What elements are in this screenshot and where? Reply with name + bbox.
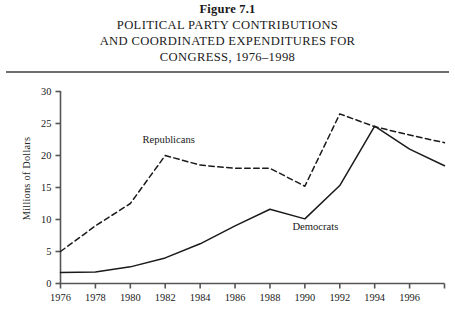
figure-title-line-3: CONGRESS, 1976–1998	[0, 49, 455, 65]
series-lines	[61, 114, 445, 273]
x-tick-label: 1992	[329, 292, 350, 303]
series-line-democrats	[61, 126, 445, 273]
series-label-republicans: Republicans	[143, 134, 195, 145]
figure-number: Figure 7.1	[0, 2, 455, 17]
y-tick-label: 25	[41, 118, 51, 129]
y-tick-label: 10	[41, 214, 51, 225]
y-tick-label: 30	[41, 86, 51, 97]
series-annotations: RepublicansDemocrats	[143, 134, 339, 232]
title-divider-rule	[6, 71, 449, 73]
x-tick-label: 1978	[85, 292, 106, 303]
y-tick-label: 20	[41, 150, 51, 161]
plot-area: 051015202530 197619781980198219841986198…	[0, 80, 455, 317]
x-tick-label: 1980	[120, 292, 141, 303]
figure-title-block: Figure 7.1 POLITICAL PARTY CONTRIBUTIONS…	[0, 2, 455, 66]
x-axis-ticks: 1976197819801982198419861988199019921994…	[50, 284, 444, 303]
x-tick-label: 1990	[294, 292, 315, 303]
figure-title-line-1: POLITICAL PARTY CONTRIBUTIONS	[0, 17, 455, 33]
x-tick-label: 1984	[190, 292, 212, 303]
x-tick-label: 1976	[50, 292, 71, 303]
y-tick-label: 0	[46, 278, 51, 289]
x-tick-label: 1988	[260, 292, 281, 303]
y-axis-ticks: 051015202530	[41, 86, 60, 289]
x-tick-label: 1994	[364, 292, 386, 303]
line-chart-svg: 051015202530 197619781980198219841986198…	[0, 80, 455, 317]
figure-title-line-2: AND COORDINATED EXPENDITURES FOR	[0, 33, 455, 49]
series-label-democrats: Democrats	[292, 221, 338, 232]
y-tick-label: 15	[41, 182, 51, 193]
figure-page: Figure 7.1 POLITICAL PARTY CONTRIBUTIONS…	[0, 0, 455, 317]
x-tick-label: 1986	[225, 292, 246, 303]
x-tick-label: 1996	[399, 292, 420, 303]
x-tick-label: 1982	[155, 292, 176, 303]
axes-group	[60, 91, 445, 284]
y-tick-label: 5	[46, 246, 51, 257]
